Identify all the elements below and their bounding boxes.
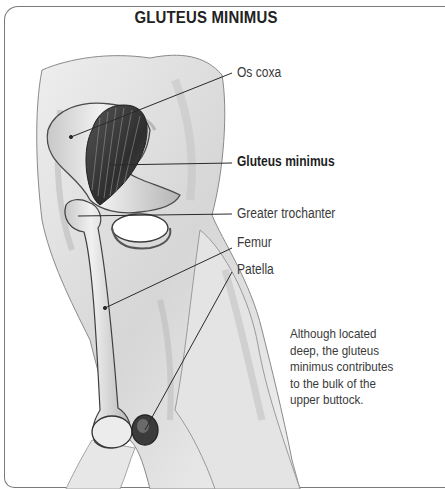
label-femur: Femur (237, 234, 272, 250)
label-os-coxa: Os coxa (237, 64, 281, 80)
label-greater-trochanter: Greater trochanter (237, 205, 335, 221)
description-line: upper buttock. (290, 392, 402, 409)
description-line: to the bulk of the (290, 376, 402, 393)
label-gluteus-minimus: Gluteus minimus (237, 153, 335, 169)
description-line: deep, the gluteus (290, 343, 402, 360)
description-line: minimus contributes (290, 359, 402, 376)
description-line: Although located (290, 326, 402, 343)
label-patella: Patella (237, 261, 274, 277)
description-text: Although located deep, the gluteus minim… (290, 326, 402, 409)
